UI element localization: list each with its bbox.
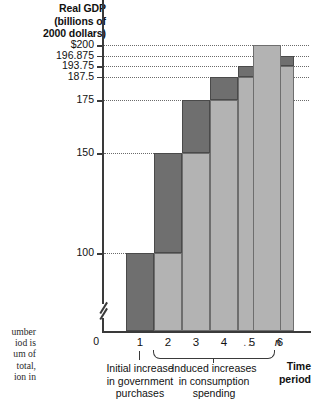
y-tick-label-150: 150 — [76, 147, 94, 158]
x-tick-label-n: n — [264, 336, 292, 349]
y-tick-label-187-5: 187.5 — [68, 71, 94, 82]
bar-n-base-segment — [253, 45, 281, 331]
y-tick-200 — [97, 45, 104, 47]
margin-note-line-1: umber — [0, 326, 36, 337]
bar-3-base-segment — [182, 153, 210, 331]
margin-note-line-3: um of — [0, 348, 36, 359]
x-axis-title-line-1: Time — [258, 360, 311, 373]
y-axis-line — [102, 0, 104, 333]
gridline-150 — [104, 153, 154, 154]
y-tick-label-100: 100 — [76, 247, 94, 258]
y-axis-title: Real GDP (billions of 2000 dollars) — [18, 2, 106, 40]
y-tick-187-5 — [97, 77, 104, 79]
x-tick-label-4: 4 — [210, 336, 238, 349]
y-tick-193-75 — [97, 66, 104, 68]
x-tick-label-1: 1 — [126, 336, 154, 349]
bar-period-1 — [126, 253, 154, 331]
y-tick-150 — [97, 153, 104, 155]
caption-induced-increases: Induced increases in consumption spendin… — [159, 362, 269, 400]
initial-increase-stem — [139, 351, 140, 360]
x-tick-label-ellipsis: ... — [236, 336, 264, 349]
x-axis-title-line-2: period — [258, 373, 311, 386]
margin-note: umber iod is um of total, ion in — [0, 326, 36, 382]
margin-note-line-2: iod is — [0, 337, 36, 348]
x-tick-label-2: 2 — [154, 336, 182, 349]
gridline-100 — [104, 253, 126, 254]
bar-period-2 — [154, 153, 182, 331]
bar-3-increment-segment — [182, 100, 210, 153]
caption-induced-line-1: Induced increases — [159, 362, 269, 375]
x-axis-line — [102, 331, 311, 333]
margin-note-line-4: total, — [0, 360, 36, 371]
caption-induced-line-2: in consumption — [159, 375, 269, 388]
y-tick-196-875 — [97, 56, 104, 58]
bar-1-increment-segment — [126, 253, 154, 331]
y-tick-label-175: 175 — [76, 94, 94, 105]
x-tick-label-3: 3 — [182, 336, 210, 349]
bar-2-base-segment — [154, 253, 182, 331]
bar-4-base-segment — [210, 100, 238, 331]
x-axis-title: Time period — [258, 360, 311, 385]
y-tick-175 — [97, 100, 104, 102]
y-axis-break-icon — [95, 300, 111, 322]
margin-note-line-5: ion in — [0, 371, 36, 382]
y-axis-title-line-2: (billions of — [18, 15, 106, 28]
caption-induced-line-3: spending — [159, 387, 269, 400]
y-tick-100 — [97, 253, 104, 255]
bar-period-3 — [182, 100, 210, 331]
bar-period-n — [253, 45, 281, 331]
bar-4-increment-segment — [210, 77, 238, 101]
y-tick-label-0: 0 — [93, 336, 99, 347]
y-axis-title-line-1: Real GDP — [18, 2, 106, 15]
bar-period-4 — [210, 77, 238, 332]
bar-2-increment-segment — [154, 153, 182, 253]
